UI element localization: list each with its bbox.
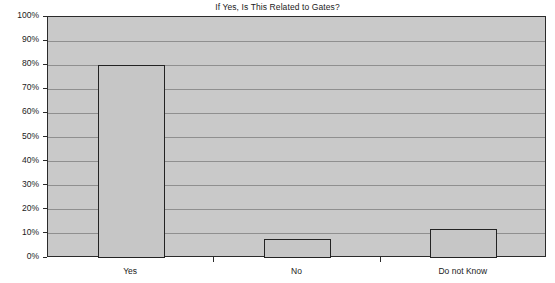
y-axis-tick-label: 70% bbox=[0, 83, 39, 92]
x-axis-tick bbox=[213, 257, 214, 262]
y-axis-tick-label: 40% bbox=[0, 156, 39, 165]
y-axis-tick-label: 80% bbox=[0, 59, 39, 68]
y-axis-tick-label: 50% bbox=[0, 132, 39, 141]
y-axis-tick-label: 20% bbox=[0, 204, 39, 213]
y-axis-tick-label: 30% bbox=[0, 180, 39, 189]
bar bbox=[98, 65, 165, 258]
bar bbox=[264, 239, 331, 258]
chart-title: If Yes, Is This Related to Gates? bbox=[0, 2, 555, 13]
plot-area bbox=[47, 16, 546, 257]
y-axis-tick-label: 10% bbox=[0, 228, 39, 237]
y-axis-tick-label: 90% bbox=[0, 35, 39, 44]
x-axis-category-label: Do not Know bbox=[380, 266, 546, 276]
y-axis-tick-label: 100% bbox=[0, 11, 39, 20]
y-axis-tick-label: 0% bbox=[0, 252, 39, 261]
x-axis-category-label: No bbox=[213, 266, 379, 276]
x-axis-category-label: Yes bbox=[47, 266, 213, 276]
bar bbox=[430, 229, 497, 258]
y-axis-tick-label: 60% bbox=[0, 107, 39, 116]
x-axis-tick bbox=[380, 257, 381, 262]
gridline bbox=[48, 41, 545, 42]
bar-chart: If Yes, Is This Related to Gates? 0%10%2… bbox=[0, 0, 555, 283]
